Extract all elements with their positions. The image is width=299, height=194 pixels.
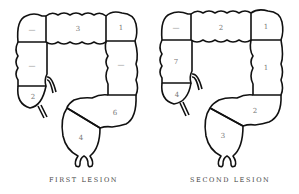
- segment-label: 3: [213, 132, 233, 140]
- first-lesion-diagram: — 3 1 — — 2 6 4 FIRST LESION: [0, 0, 150, 194]
- segment-label: 7: [166, 58, 186, 66]
- diagram-caption: FIRST LESION: [49, 176, 118, 184]
- segment-label: 3: [68, 25, 88, 33]
- segment-label: —: [22, 62, 42, 70]
- diagram-caption: SECOND LESION: [190, 176, 270, 184]
- segment-label: 2: [23, 93, 43, 101]
- segment-label: 6: [105, 109, 125, 117]
- segment-label: 1: [256, 23, 276, 31]
- second-lesion-diagram: — 2 1 7 1 4 2 3 SECOND LESION: [150, 0, 299, 194]
- segment-label: —: [166, 24, 186, 32]
- segment-label: 1: [256, 64, 276, 72]
- segment-label: 4: [167, 91, 187, 99]
- segment-label: 4: [71, 134, 91, 142]
- segment-label: 2: [245, 107, 265, 115]
- segment-label: 2: [211, 24, 231, 32]
- segment-label: —: [22, 26, 42, 34]
- segment-label: —: [111, 61, 131, 69]
- segment-label: 1: [111, 24, 131, 32]
